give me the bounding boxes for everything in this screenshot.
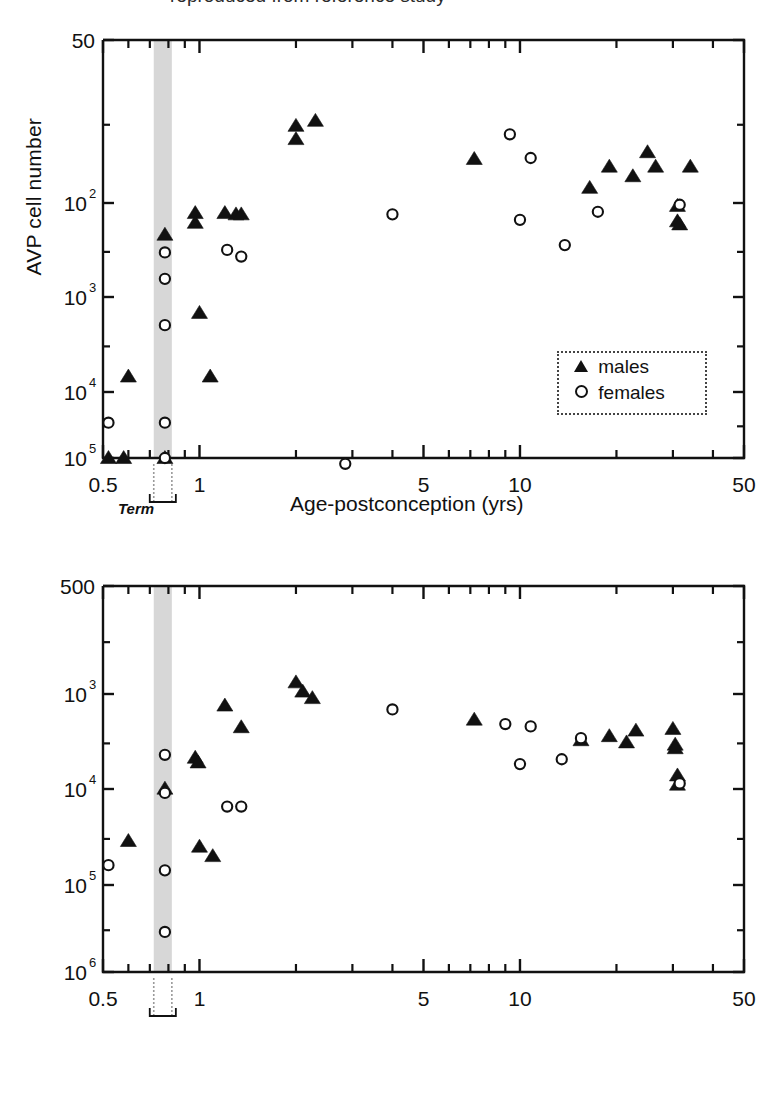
- svg-text:3: 3: [89, 280, 96, 295]
- svg-text:10: 10: [64, 961, 87, 984]
- total-cell-number-scatter-plot[interactable]: 5001031041051060.5151050: [0, 546, 776, 1106]
- svg-text:5: 5: [418, 987, 430, 1010]
- svg-text:10: 10: [64, 683, 87, 706]
- avp-cell-number-scatter-plot[interactable]: 501021031041050.5151050: [0, 0, 776, 560]
- svg-text:50: 50: [732, 473, 755, 496]
- y-axis-label-avp: AVP cell number: [22, 118, 46, 275]
- svg-text:1: 1: [194, 473, 206, 496]
- svg-text:5: 5: [89, 868, 96, 883]
- svg-text:5: 5: [89, 441, 96, 456]
- svg-text:3: 3: [89, 677, 96, 692]
- legend-item-males-top: males: [569, 356, 649, 378]
- svg-text:10: 10: [64, 447, 87, 470]
- filled-triangle-icon: [569, 356, 593, 378]
- legend-top: males females: [557, 351, 707, 415]
- svg-text:0.5: 0.5: [88, 987, 117, 1010]
- svg-text:10: 10: [64, 381, 87, 404]
- svg-text:50: 50: [732, 987, 755, 1010]
- svg-text:500: 500: [60, 575, 95, 598]
- svg-text:6: 6: [89, 955, 96, 970]
- legend-item-females-top: females: [569, 382, 665, 404]
- svg-text:10: 10: [64, 286, 87, 309]
- svg-text:0.5: 0.5: [88, 473, 117, 496]
- avp-cell-number-chart-panel: 501021031041050.5151050 AVP cell number …: [0, 0, 776, 560]
- svg-text:4: 4: [89, 375, 96, 390]
- x-axis-label-top: Age-postconception (yrs): [290, 492, 523, 516]
- svg-text:2: 2: [89, 186, 96, 201]
- svg-text:10: 10: [64, 192, 87, 215]
- legend-label-females: females: [598, 382, 665, 403]
- legend-label-males: males: [598, 356, 649, 377]
- svg-text:10: 10: [64, 874, 87, 897]
- term-annotation-label-top: Term: [118, 500, 154, 517]
- svg-text:10: 10: [508, 987, 531, 1010]
- svg-text:10: 10: [64, 778, 87, 801]
- svg-text:50: 50: [72, 29, 95, 52]
- svg-text:4: 4: [89, 772, 96, 787]
- total-cell-number-chart-panel: 5001031041051060.5151050 Total cell numb…: [0, 546, 776, 1106]
- open-circle-icon: [569, 382, 593, 404]
- svg-text:1: 1: [194, 987, 206, 1010]
